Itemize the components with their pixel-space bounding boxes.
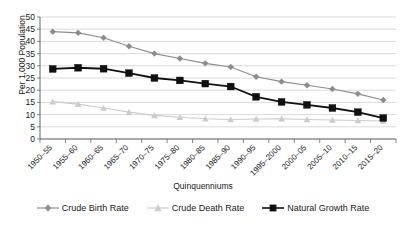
y-tick-label: 35 bbox=[26, 49, 36, 59]
data-point bbox=[75, 30, 81, 36]
data-point bbox=[354, 109, 361, 116]
legend-label: Crude Birth Rate bbox=[62, 203, 129, 213]
x-tick-label: 1975–80 bbox=[153, 143, 182, 172]
y-tick-label: 20 bbox=[26, 85, 36, 95]
y-tick-label: 15 bbox=[26, 97, 36, 107]
legend-marker-triangle-icon bbox=[147, 202, 169, 214]
y-tick-label: 40 bbox=[26, 36, 36, 46]
y-tick-label: 30 bbox=[26, 61, 36, 71]
x-tick-label: 2015–20 bbox=[356, 143, 385, 172]
data-point bbox=[75, 64, 82, 71]
x-tick-label: 1950–55 bbox=[26, 143, 55, 172]
legend-item-crude-birth-rate[interactable]: Crude Birth Rate bbox=[37, 202, 129, 214]
x-tick-label: 1970–75 bbox=[127, 143, 156, 172]
chart-legend: Crude Birth Rate Crude Death Rate Natura… bbox=[0, 202, 406, 214]
data-point bbox=[304, 82, 310, 88]
data-point bbox=[253, 93, 260, 100]
data-point bbox=[126, 43, 132, 49]
x-axis-ticks bbox=[40, 139, 396, 143]
data-series-layer bbox=[49, 28, 386, 123]
x-tick-label: 2005–10 bbox=[305, 143, 334, 172]
data-point bbox=[100, 35, 106, 41]
data-point bbox=[100, 65, 107, 72]
legend-item-crude-death-rate[interactable]: Crude Death Rate bbox=[147, 202, 245, 214]
x-tick-label: 1955–60 bbox=[51, 143, 80, 172]
data-point bbox=[228, 64, 234, 70]
data-point bbox=[355, 91, 361, 97]
x-axis-tick-labels: 1950–551955–601960–651965–701970–751975–… bbox=[26, 143, 385, 178]
x-tick-label: 1965–70 bbox=[102, 143, 131, 172]
x-tick-label: 1985–90 bbox=[204, 143, 233, 172]
y-tick-label: 25 bbox=[26, 73, 36, 83]
data-point bbox=[304, 101, 311, 108]
y-tick-label: 10 bbox=[26, 110, 36, 120]
data-point bbox=[202, 80, 209, 87]
y-tick-label: 50 bbox=[26, 12, 36, 22]
series-natural-growth-rate bbox=[49, 64, 386, 121]
y-axis-tick-labels: 50454035302520151050 bbox=[26, 12, 40, 144]
x-tick-label: 1980–85 bbox=[178, 143, 207, 172]
data-point bbox=[380, 115, 387, 122]
legend-item-natural-growth-rate[interactable]: Natural Growth Rate bbox=[262, 202, 369, 214]
data-point bbox=[278, 99, 285, 106]
y-tick-label: 0 bbox=[30, 134, 35, 144]
data-point bbox=[126, 70, 133, 77]
plot-area: 50454035302520151050 1950–551955–601960–… bbox=[0, 0, 406, 200]
x-axis-title: Quinquenniums bbox=[0, 181, 406, 191]
legend-marker-square-icon bbox=[262, 202, 284, 214]
data-point bbox=[151, 50, 157, 56]
data-point bbox=[278, 78, 284, 84]
data-point bbox=[329, 86, 335, 92]
data-point bbox=[177, 55, 183, 61]
data-point bbox=[329, 105, 336, 112]
legend-label: Natural Growth Rate bbox=[287, 203, 369, 213]
data-point bbox=[227, 83, 234, 90]
data-point bbox=[151, 75, 158, 82]
legend-label: Crude Death Rate bbox=[172, 203, 245, 213]
x-tick-label: 2010–15 bbox=[331, 143, 360, 172]
x-tick-label: 1960–65 bbox=[77, 143, 106, 172]
legend-marker-diamond-icon bbox=[37, 202, 59, 214]
data-point bbox=[176, 77, 183, 84]
data-point bbox=[49, 66, 56, 73]
x-tick-label: 2000–05 bbox=[280, 143, 309, 172]
line-chart: Per 1,000 Population 5045403530252015105… bbox=[0, 0, 406, 229]
data-point bbox=[253, 74, 259, 80]
y-tick-label: 5 bbox=[30, 122, 35, 132]
y-tick-label: 45 bbox=[26, 24, 36, 34]
